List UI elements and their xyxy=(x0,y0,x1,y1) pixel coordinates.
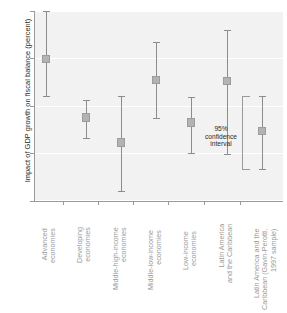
data-marker[interactable] xyxy=(223,77,231,85)
x-tick-mark-3 xyxy=(133,201,134,205)
error-bar-cap-lower xyxy=(224,154,231,155)
x-axis-label-low-income-economies: Low-income economies xyxy=(182,231,199,270)
error-bar-cap-upper xyxy=(83,100,90,101)
x-tick-mark-4 xyxy=(168,201,169,205)
error-bar-cap-lower xyxy=(153,118,160,119)
gridline-30 xyxy=(34,11,283,12)
x-axis-label-line: economies xyxy=(120,227,128,290)
error-bar-cap-lower xyxy=(118,191,125,192)
y-tick-mark-20 xyxy=(30,58,34,59)
x-tick-mark-1 xyxy=(63,201,64,205)
y-axis-line xyxy=(34,11,35,201)
x-axis-label-line: economies xyxy=(155,230,163,290)
data-marker[interactable] xyxy=(152,76,160,84)
x-tick-mark-6 xyxy=(240,201,241,205)
x-axis-label-line: economies xyxy=(49,228,57,263)
x-axis-label-advanced-economies: Advanced economies xyxy=(41,228,58,263)
y-tick-mark-10 xyxy=(30,106,34,107)
x-axis-label-line: 1997 sample) xyxy=(270,229,278,311)
annotation-line-1: 95% xyxy=(198,125,244,133)
error-bar-cap-lower xyxy=(83,138,90,139)
error-bar-cap-upper xyxy=(224,30,231,31)
data-marker[interactable] xyxy=(258,127,266,135)
x-axis-label-developing-economies: Developing economies xyxy=(76,227,93,263)
data-marker[interactable] xyxy=(42,55,50,63)
error-bar-cap-lower xyxy=(188,153,195,154)
error-bar-cap-lower xyxy=(43,96,50,97)
y-tick-mark-0 xyxy=(30,153,34,154)
y-tick-mark-neg10 xyxy=(30,201,34,202)
error-bar-cap-upper xyxy=(153,42,160,43)
y-axis-title: Impact of GDP growth on fiscal balance (… xyxy=(23,6,32,196)
annotation-line-2: confidence xyxy=(198,133,244,141)
x-axis-label-line: economies xyxy=(84,227,92,263)
annotation-line-3: interval xyxy=(198,140,244,148)
data-marker[interactable] xyxy=(187,118,195,126)
data-marker[interactable] xyxy=(82,113,90,121)
gridline-20 xyxy=(34,58,283,59)
x-axis-label-middle-high-income-economies: Middle-high-income economies xyxy=(112,227,129,290)
x-axis-label-latin-america-caribbean-gavin-perotti: Latin America and the Caribbean (Gavin-P… xyxy=(253,229,278,311)
error-bar-cap-upper xyxy=(188,97,195,98)
confidence-interval-annotation: 95% confidence interval xyxy=(198,125,244,148)
error-bar-cap-upper xyxy=(259,96,266,97)
x-axis-label-line: and the Caribbean xyxy=(226,224,234,283)
x-axis-label-middle-low-income-economies: Middle-low-income economies xyxy=(147,230,164,290)
error-bar-cap-lower xyxy=(259,169,266,170)
error-bar-cap-upper xyxy=(43,11,50,12)
data-marker[interactable] xyxy=(117,138,125,146)
x-axis-label-latin-america-caribbean: Latin America and the Caribbean xyxy=(218,224,235,283)
chart-container: Impact of GDP growth on fiscal balance (… xyxy=(0,0,287,313)
x-tick-mark-2 xyxy=(98,201,99,205)
x-axis-label-line: economies xyxy=(190,231,198,270)
x-tick-mark-5 xyxy=(204,201,205,205)
x-axis-line xyxy=(34,201,283,202)
y-tick-mark-30 xyxy=(30,11,34,12)
error-bar-cap-upper xyxy=(118,96,125,97)
plot-area xyxy=(34,11,283,201)
